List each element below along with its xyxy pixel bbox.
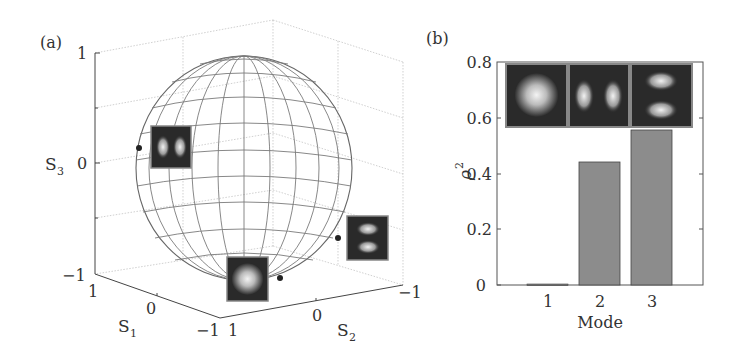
figure: (a) 1 0 −1 S 3 1 0 −1 S 1 1 0 −1 S 2 (b) [0,0,742,357]
s1-tick-1: 1 [88,282,98,301]
inset-mode-2 [569,64,629,127]
s2-axis-label: S [337,320,349,340]
point-vertical-mode [335,235,341,241]
s1-tick-0: 0 [146,299,156,318]
s3-tick-0: 0 [77,154,87,173]
ytick-0.8: 0.8 [467,53,492,72]
xtick-2: 2 [595,292,605,311]
bar-chart-panel: (b) 0 0.2 0.4 0.6 0.8 [426,29,703,332]
xtick-3: 3 [647,292,657,311]
inset-mode-3 [631,64,692,127]
ytick-0: 0 [476,276,486,295]
xtick-1: 1 [543,292,553,311]
point-horizontal-mode [136,145,142,151]
poincare-panel: (a) 1 0 −1 S 3 1 0 −1 S 1 1 0 −1 S 2 [40,20,422,344]
s1-tick-neg1: −1 [196,321,220,340]
s2-axis-sub: 2 [349,331,356,344]
bar-mode-3 [631,130,672,285]
bar-mode-2 [579,162,620,285]
bar-mode-1 [527,284,568,286]
s3-tick-neg1: −1 [62,266,86,285]
s1-axis-sub: 1 [130,327,137,340]
inset-mode-1 [506,64,567,127]
ytick-0.2: 0.2 [467,220,492,239]
panel-a-label: (a) [40,33,62,52]
s1-axis-label: S [118,316,130,336]
s2-tick-0: 0 [312,306,322,325]
point-fundamental-mode [277,275,283,281]
y-axis-label: ρ [455,170,475,181]
s2-tick-neg1: −1 [398,283,422,302]
s3-axis-sub: 3 [57,165,64,178]
x-axis-label: Mode [577,313,623,332]
s2-tick-1: 1 [228,321,238,340]
figure-canvas: (a) 1 0 −1 S 3 1 0 −1 S 1 1 0 −1 S 2 (b) [0,0,742,357]
panel-b-label: (b) [426,29,449,48]
inset-horizontal-lobes [151,126,191,168]
inset-fundamental [227,257,268,301]
ytick-0.6: 0.6 [467,109,492,128]
inset-vertical-lobes [347,216,388,260]
y-axis-label-sup: 2 [453,162,466,169]
s3-axis-label: S [45,154,57,174]
s3-tick-1: 1 [77,44,87,63]
